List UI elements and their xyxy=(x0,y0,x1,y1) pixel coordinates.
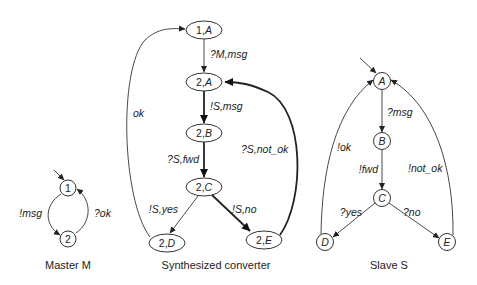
svg-text:2,C: 2,C xyxy=(196,181,213,193)
svg-text:D: D xyxy=(321,236,329,248)
state-c: C xyxy=(374,190,391,207)
svg-text:1: 1 xyxy=(65,182,71,194)
state-2-c: 2,C xyxy=(186,178,222,196)
svg-text:2: 2 xyxy=(65,233,71,245)
state-machine-diagram: 1 2 !msg ?ok Master M 1,A 2,A 2,B xyxy=(0,0,477,285)
label-not-ok: !not_ok xyxy=(408,162,443,174)
svg-text:2,D: 2,D xyxy=(159,237,176,249)
state-2: 2 xyxy=(60,231,76,247)
initial-arrow xyxy=(360,58,376,73)
label-ok: !ok xyxy=(337,141,352,153)
label-msg: ?msg xyxy=(387,106,413,118)
label-s-no: !S,no xyxy=(232,203,257,215)
label-s-yes: !S,yes xyxy=(149,203,179,215)
state-2-e: 2,E xyxy=(246,231,282,249)
svg-text:B: B xyxy=(378,135,385,147)
state-1: 1 xyxy=(60,180,76,196)
state-2-d: 2,D xyxy=(149,234,185,252)
label-m-msg: ?M,msg xyxy=(210,48,248,60)
edge-not-ok xyxy=(391,80,453,235)
state-e: E xyxy=(439,234,456,251)
synthesized-converter: 1,A 2,A 2,B 2,C 2,D 2,E ?M,msg !S,msg ?S… xyxy=(127,21,298,271)
slave-s: A B C D E ?msg !fwd ?yes ?no !ok !not_ok… xyxy=(317,58,456,271)
label-not-ok: ?S,not_ok xyxy=(241,143,289,155)
state-a: A xyxy=(374,73,391,90)
state-b: B xyxy=(374,133,391,150)
state-d: D xyxy=(317,234,334,251)
svg-text:1,A: 1,A xyxy=(196,24,212,36)
label-fwd: !fwd xyxy=(359,163,379,175)
initial-arrow xyxy=(54,170,64,180)
svg-text:2,B: 2,B xyxy=(196,127,212,139)
svg-text:2,A: 2,A xyxy=(196,76,212,88)
edge-ok xyxy=(76,189,88,233)
caption-converter: Synthesized converter xyxy=(162,259,271,271)
state-1-a: 1,A xyxy=(186,21,222,39)
label-yes: ?yes xyxy=(340,206,363,218)
label-msg: !msg xyxy=(19,207,42,219)
label-ok: ?ok xyxy=(94,207,112,219)
svg-text:2,E: 2,E xyxy=(256,234,273,246)
label-ok: ok xyxy=(133,107,145,119)
label-s-fwd: ?S,fwd xyxy=(167,153,200,165)
svg-text:A: A xyxy=(377,75,385,87)
caption-master: Master M xyxy=(45,259,91,271)
label-s-msg: !S,msg xyxy=(210,100,243,112)
edge-msg xyxy=(48,194,61,235)
caption-slave: Slave S xyxy=(370,259,408,271)
label-no: ?no xyxy=(403,206,421,218)
state-2-a: 2,A xyxy=(186,73,222,91)
svg-text:E: E xyxy=(443,236,451,248)
master-m: 1 2 !msg ?ok Master M xyxy=(19,170,111,271)
state-2-b: 2,B xyxy=(186,124,222,142)
svg-text:C: C xyxy=(378,192,386,204)
